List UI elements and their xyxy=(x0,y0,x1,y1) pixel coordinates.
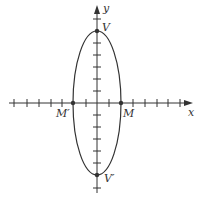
point-v xyxy=(95,29,99,33)
label-v: V xyxy=(102,21,111,34)
x-axis-label: x xyxy=(188,106,195,119)
y-axis-label: y xyxy=(102,2,110,15)
y-axis-arrow-icon xyxy=(94,5,100,14)
point-m xyxy=(119,101,123,105)
label-m-prime: M′ xyxy=(55,107,70,120)
label-v-prime: V′ xyxy=(104,172,115,185)
point-v-prime xyxy=(95,173,99,177)
label-m: M xyxy=(122,107,135,120)
point-m-prime xyxy=(71,101,75,105)
x-axis: x xyxy=(9,99,195,119)
ellipse-diagram: x y V V′ M M′ xyxy=(0,0,197,201)
